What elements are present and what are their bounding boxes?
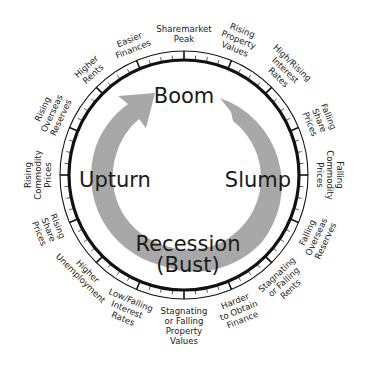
indicator-label: HigherUnemployment	[54, 244, 115, 305]
indicator-label: RisingOverseasReserves	[30, 88, 74, 138]
indicator-label: Stagnatingor FallingRents	[256, 255, 311, 309]
phase-upturn: Upturn	[79, 168, 151, 192]
indicator-label: FallingSharePrices	[300, 102, 338, 139]
indicator-label: High/RisingInterestRates	[257, 42, 313, 97]
indicator-label: RisingCommodityPrices	[23, 150, 53, 200]
indicator-label: FallingOverseasReserves	[294, 212, 338, 262]
indicator-label: SharemarketPeak	[156, 24, 212, 44]
indicator-label: EasierFinances	[110, 28, 153, 61]
indicator-label: FallingCommodityPrices	[315, 150, 345, 200]
indicator-label: Stagnatingor FallingPropertyValues	[161, 306, 208, 346]
indicator-label: Harderto ObtainFinance	[215, 289, 263, 332]
indicator-label: RisingPropertyValues	[216, 19, 261, 60]
phase-boom: Boom	[154, 84, 215, 108]
economic-cycle-diagram: Boom Slump Upturn Recession (Bust) Share…	[0, 0, 371, 379]
phase-slump: Slump	[225, 168, 291, 192]
indicator-label: RisingSharePrices	[30, 212, 68, 248]
phase-recession-bust: (Bust)	[156, 253, 219, 277]
